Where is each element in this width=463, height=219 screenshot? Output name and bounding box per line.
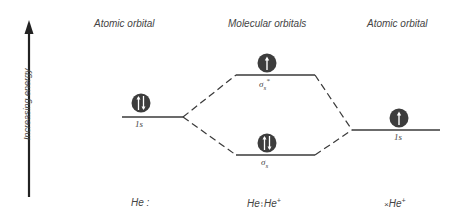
- header-left-atomic-orbital: Atomic orbital: [94, 18, 155, 29]
- formula-center-electrons: ⁞: [261, 200, 263, 209]
- electron-up-icon: [390, 109, 409, 128]
- sigma-label: σs: [261, 157, 268, 170]
- formula-center-he: He: [247, 198, 260, 209]
- sigma-star-label: σs*: [259, 77, 270, 92]
- energy-axis-label: Increasing energy: [22, 68, 32, 140]
- formula-center: He⁞He+: [247, 197, 281, 209]
- header-right-atomic-orbital: Atomic orbital: [367, 18, 428, 29]
- formula-center-ion: He: [264, 198, 277, 209]
- formula-left: He :: [131, 197, 149, 208]
- formula-right-ion: He: [389, 198, 402, 209]
- mo-diagram: [0, 0, 463, 219]
- formula-center-charge: +: [277, 197, 281, 204]
- header-molecular-orbitals: Molecular orbitals: [228, 18, 306, 29]
- electron-pair-icon: [258, 134, 277, 153]
- electron-up-icon: [258, 54, 277, 73]
- formula-right: ×He+: [384, 197, 406, 209]
- right-1s-label: 1s: [394, 132, 402, 142]
- left-1s-label: 1s: [135, 119, 143, 129]
- formula-right-charge: +: [401, 197, 405, 204]
- sigma-sub: s: [265, 162, 268, 170]
- electron-pair-icon: [132, 94, 151, 113]
- sigma-star-sup: *: [266, 77, 270, 85]
